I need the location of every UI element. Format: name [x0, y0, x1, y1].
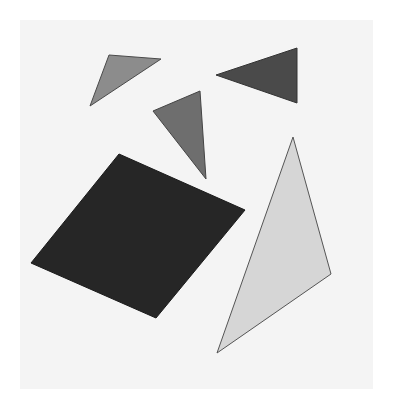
tangram-canvas [0, 0, 393, 407]
shapes-svg [0, 0, 393, 407]
